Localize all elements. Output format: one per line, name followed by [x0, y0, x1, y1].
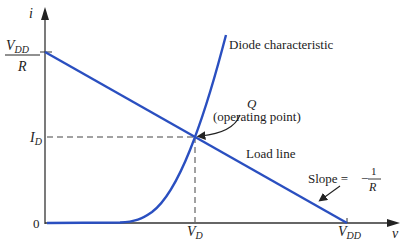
vdd-label: VDD: [6, 38, 30, 55]
load-line-label: Load line: [246, 146, 296, 161]
slope-numerator: 1: [371, 165, 377, 177]
origin-label: 0: [33, 216, 40, 231]
diode-curve: [47, 35, 226, 223]
slope-label: Slope =: [308, 171, 348, 186]
vdd-x-label: VDD: [338, 224, 362, 241]
y-axis-arrow-icon: [41, 7, 49, 20]
x-axis-label: v: [392, 226, 399, 241]
diode-characteristic-label: Diode characteristic: [229, 37, 334, 52]
id-label: ID: [29, 130, 43, 147]
vd-label: VD: [187, 224, 204, 241]
r-label: R: [17, 59, 27, 74]
operating-point-label: (operating point): [213, 109, 301, 124]
y-axis-label: i: [29, 6, 33, 21]
slope-minus: −: [361, 171, 368, 186]
slope-pointer-arrow: [322, 186, 340, 199]
slope-denominator: R: [368, 180, 377, 194]
load-line-diagram: i VDD R ID 0 VD VDD v Diode characterist…: [0, 0, 416, 249]
